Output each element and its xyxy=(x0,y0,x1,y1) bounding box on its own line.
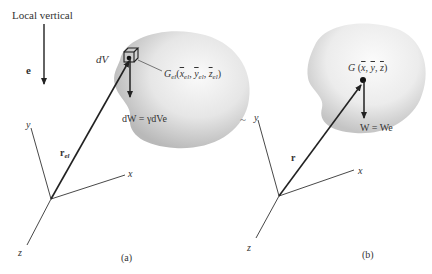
position-vector-label-b: r xyxy=(291,153,295,163)
body-b xyxy=(307,23,425,133)
unit-vector-label: e xyxy=(26,65,31,76)
tilde-symbol: ~ xyxy=(240,114,246,125)
position-vector-b xyxy=(279,85,361,196)
centroid-dot xyxy=(360,77,366,83)
gravity-centroid-diagram: Local vertical e dV Gel(xel, yel, zel) d… xyxy=(0,0,432,274)
caption-b: (b) xyxy=(362,250,374,260)
total-weight-label: W = We xyxy=(360,123,393,133)
axis-z-label-a: z xyxy=(18,248,22,258)
element-weight-label: dW = γdVe xyxy=(122,114,167,124)
axis-x-label-b: x xyxy=(358,166,362,176)
axis-y-label-b: y xyxy=(254,113,258,123)
body-a xyxy=(114,31,250,148)
axis-y-label-a: y xyxy=(26,120,30,130)
axis-x-label-a: x xyxy=(128,169,132,179)
axes-b xyxy=(256,120,354,238)
position-vector-a xyxy=(51,61,129,199)
axis-z-label-b: z xyxy=(247,243,251,253)
local-vertical-label: Local vertical xyxy=(12,10,73,21)
centroid-label: G (x, y, z) xyxy=(348,63,387,73)
position-vector-label-a: rel xyxy=(60,148,70,160)
volume-element-label: dV xyxy=(96,54,108,65)
axes-a xyxy=(27,128,125,245)
caption-a: (a) xyxy=(121,253,132,263)
diagram-graphics xyxy=(0,0,432,274)
element-centroid-label: Gel(xel, yel, zel) xyxy=(164,69,221,81)
